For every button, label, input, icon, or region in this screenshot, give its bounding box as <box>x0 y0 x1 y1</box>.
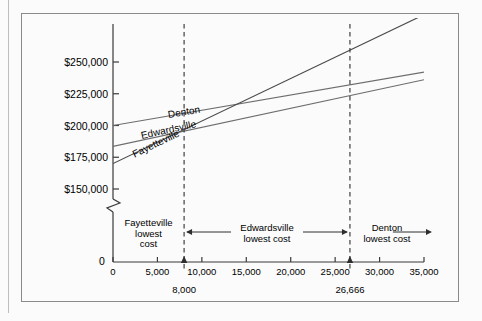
y-axis-tick-label: $200,000 <box>48 120 108 132</box>
edwardsville-region-arrow-head-left <box>186 229 192 235</box>
x-axis-tick-label: 10,000 <box>187 266 216 277</box>
breakeven-label-26666: 26,666 <box>335 284 364 295</box>
denton-region-label-line: lowest cost <box>363 234 410 245</box>
denton-region-arrow-head-right <box>426 229 432 235</box>
y-axis-break-symbol <box>107 199 120 212</box>
y-axis-tick-label: $250,000 <box>48 56 108 68</box>
x-axis-tick-label: 0 <box>110 266 115 277</box>
edwardsville-region-label: Edwardsvillelowest cost <box>240 223 293 244</box>
y-axis-origin-label: 0 <box>99 255 105 267</box>
x-axis-tick-label: 5,000 <box>146 266 170 277</box>
plot-area: $150,000$175,000$200,000$225,000$250,000… <box>0 0 482 321</box>
fayetteville-region-label-line: cost <box>125 239 173 250</box>
y-axis-tick-label: $225,000 <box>48 88 108 100</box>
breakeven-arrow-8000 <box>181 256 187 263</box>
x-axis-tick-label: 35,000 <box>409 266 438 277</box>
chart-figure: $150,000$175,000$200,000$225,000$250,000… <box>0 0 482 321</box>
x-axis-tick-label: 20,000 <box>276 266 305 277</box>
series-line-denton <box>113 72 424 125</box>
x-axis-tick-label: 25,000 <box>321 266 350 277</box>
y-axis-tick-label: $150,000 <box>48 183 108 195</box>
breakeven-arrow-26666 <box>347 256 353 263</box>
denton-region-label-line: Denton <box>363 223 410 234</box>
fayetteville-region-label: Fayettevillelowestcost <box>125 218 173 250</box>
denton-region-label: Dentonlowest cost <box>363 223 410 244</box>
x-axis-tick-label: 15,000 <box>232 266 261 277</box>
fayetteville-region-label-line: Fayetteville <box>125 218 173 229</box>
edwardsville-region-arrow-head-right <box>342 229 348 235</box>
edwardsville-region-label-line: lowest cost <box>240 234 293 245</box>
x-axis-tick-label: 30,000 <box>365 266 394 277</box>
y-axis-tick-label: $175,000 <box>48 151 108 163</box>
breakeven-label-8000: 8,000 <box>172 284 196 295</box>
edwardsville-region-label-line: Edwardsville <box>240 223 293 234</box>
